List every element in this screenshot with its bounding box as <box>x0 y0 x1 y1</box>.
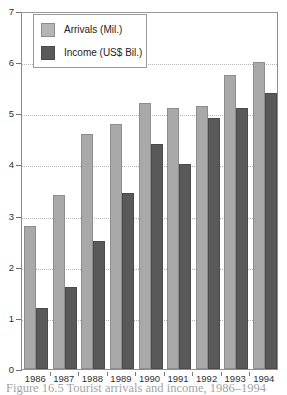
y-tick-label: 0 <box>9 365 14 375</box>
y-tick-mark <box>16 370 22 371</box>
y-tick-label: 7 <box>9 7 14 17</box>
figure-caption: Figure 16.5 Tourist arrivals and income,… <box>6 382 286 395</box>
x-tick-mark <box>192 372 193 376</box>
legend-swatch-arrivals <box>41 23 55 37</box>
bar-income <box>65 287 77 369</box>
bar-income <box>122 193 134 369</box>
x-tick-mark <box>50 372 51 376</box>
legend-item-arrivals: Arrivals (Mil.) <box>41 22 122 38</box>
y-tick-label: 3 <box>9 212 14 222</box>
bar-income <box>93 241 105 369</box>
bar-income <box>208 118 220 369</box>
bar-income <box>236 108 248 369</box>
bar-income <box>179 164 191 369</box>
x-tick-mark <box>164 372 165 376</box>
y-tick-label: 5 <box>9 109 14 119</box>
bar-arrivals <box>24 226 36 369</box>
y-tick-label: 4 <box>9 160 14 170</box>
y-tick-label: 6 <box>9 58 14 68</box>
y-tick-label: 2 <box>9 263 14 273</box>
bar-income <box>265 93 277 369</box>
bar-arrivals <box>224 75 236 369</box>
bar-arrivals <box>81 134 93 369</box>
legend-item-income: Income (US$ Bil.) <box>41 45 142 61</box>
x-tick-mark <box>78 372 79 376</box>
bar-group <box>253 13 277 369</box>
y-axis: 01234567 <box>0 0 21 390</box>
bar-income <box>36 308 48 369</box>
bar-arrivals <box>167 108 179 369</box>
bar-arrivals <box>253 62 265 369</box>
x-tick-mark <box>249 372 250 376</box>
legend-label-arrivals: Arrivals (Mil.) <box>64 24 122 36</box>
legend-label-income: Income (US$ Bil.) <box>64 47 142 59</box>
x-tick-mark <box>221 372 222 376</box>
x-tick-mark <box>107 372 108 376</box>
bar-arrivals <box>139 103 151 369</box>
bar-group <box>196 13 220 369</box>
bar-arrivals <box>196 106 208 369</box>
y-tick-label: 1 <box>9 314 14 324</box>
legend-swatch-income <box>41 46 55 60</box>
bar-group <box>224 13 248 369</box>
bar-arrivals <box>53 195 65 369</box>
bar-arrivals <box>110 124 122 369</box>
legend: Arrivals (Mil.) Income (US$ Bil.) <box>33 14 147 68</box>
x-tick-mark <box>135 372 136 376</box>
bar-group <box>167 13 191 369</box>
bar-income <box>151 144 163 369</box>
